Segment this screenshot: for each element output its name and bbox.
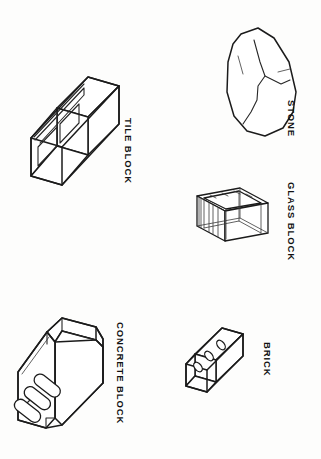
brick-drawing bbox=[186, 328, 243, 392]
masonry-units-figure: TILE BLOCK STONE GLASS BLOCK CONCRETE BL… bbox=[0, 0, 321, 459]
figure-line-art bbox=[0, 0, 321, 459]
label-tile-block: TILE BLOCK bbox=[124, 118, 134, 184]
tile-block-outline bbox=[10, 72, 125, 194]
label-brick: BRICK bbox=[263, 342, 273, 377]
glass-block-drawing bbox=[197, 188, 268, 241]
label-stone: STONE bbox=[287, 100, 297, 137]
label-concrete-block: CONCRETE BLOCK bbox=[116, 322, 126, 424]
concrete-block-drawing bbox=[12, 318, 103, 428]
label-glass-block: GLASS BLOCK bbox=[287, 182, 297, 261]
